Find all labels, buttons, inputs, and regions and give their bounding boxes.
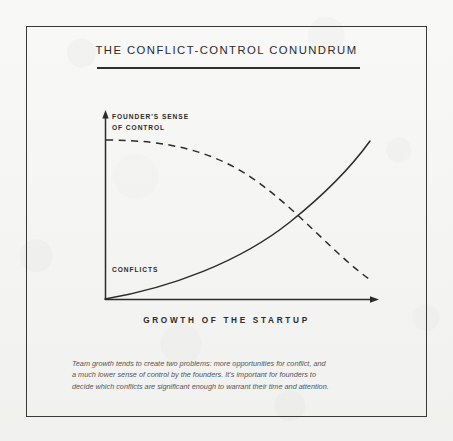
y-axis-label: FOUNDER'S SENSE OF CONTROL bbox=[112, 112, 189, 133]
caption-line-1: Team growth tends to create two problems… bbox=[72, 358, 384, 369]
y-axis-arrowhead bbox=[102, 110, 108, 119]
x-axis-label: GROWTH OF THE STARTUP bbox=[0, 316, 453, 325]
series-label-conflicts: CONFLICTS bbox=[112, 266, 158, 273]
series-line-conflicts bbox=[105, 141, 370, 299]
series-line-founders-sense-of-control bbox=[106, 140, 369, 279]
y-axis-label-line-2: OF CONTROL bbox=[112, 123, 189, 134]
caption-line-3: decide which conflicts are significant e… bbox=[72, 381, 384, 392]
caption-line-2: a much lower sense of control by the fou… bbox=[72, 369, 384, 380]
x-axis-arrowhead bbox=[370, 296, 379, 303]
y-axis-label-line-1: FOUNDER'S SENSE bbox=[112, 112, 189, 123]
figure-canvas: THE CONFLICT-CONTROL CONUNDRUM FOUNDER'S… bbox=[0, 0, 453, 441]
figure-caption: Team growth tends to create two problems… bbox=[72, 358, 384, 392]
